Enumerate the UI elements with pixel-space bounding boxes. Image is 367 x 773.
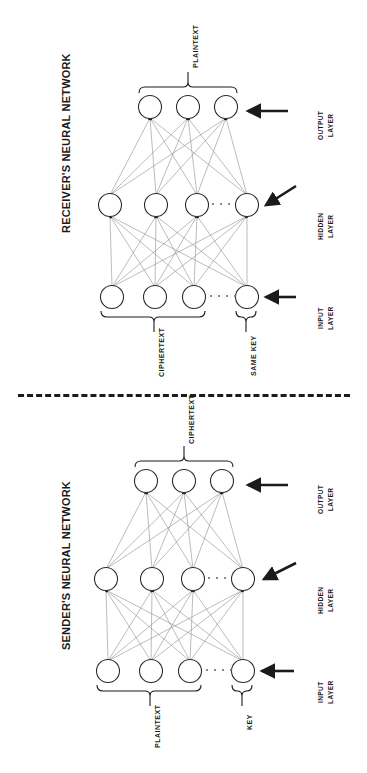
label-line-1: HIDDEN	[316, 587, 326, 614]
sender-key-brace-label: KEY	[246, 714, 253, 730]
input-layer-ellipsis	[206, 669, 232, 671]
receiver-input-layer-label: INPUT LAYER	[316, 307, 336, 331]
receiver-ciphertext-brace-label: CIPHERTEXT	[158, 328, 165, 377]
hidden-layer-ellipsis	[212, 203, 230, 205]
hidden-layer-pointer-arrow	[266, 186, 296, 205]
label-line-1: OUTPUT	[316, 111, 326, 140]
edges-input-to-hidden	[110, 216, 247, 287]
sender-network-title: SENDER'S NEURAL NETWORK	[60, 481, 72, 650]
receiver-hidden-layer-label: HIDDEN LAYER	[316, 213, 336, 240]
same-key-brace	[236, 311, 256, 332]
input-layer-ellipsis	[210, 295, 236, 297]
hidden-layer-nodes	[99, 194, 259, 217]
sender-input-layer-label: INPUT LAYER	[316, 681, 336, 705]
output-layer-nodes	[139, 96, 238, 119]
label-line-2: LAYER	[326, 485, 336, 514]
hidden-layer-ellipsis	[208, 577, 226, 579]
edges-input-to-hidden	[106, 590, 243, 661]
hidden-layer-pointer-arrow	[264, 563, 296, 579]
receiver-network-graphic	[0, 0, 367, 390]
output-layer-nodes	[135, 470, 234, 493]
ciphertext-brace	[101, 311, 205, 332]
key-brace	[232, 685, 252, 706]
edges-hidden-to-output	[110, 118, 247, 195]
receiver-plaintext-brace-label: PLAINTEXT	[192, 25, 199, 68]
sender-hidden-layer-label: HIDDEN LAYER	[316, 587, 336, 614]
edges-hidden-to-output	[106, 492, 243, 569]
label-line-2: LAYER	[326, 111, 336, 140]
label-line-2: LAYER	[326, 681, 336, 705]
plaintext-brace	[139, 72, 237, 93]
plaintext-brace	[97, 685, 201, 706]
receiver-output-layer-label: OUTPUT LAYER	[316, 111, 336, 140]
hidden-layer-nodes	[95, 568, 255, 591]
label-line-1: HIDDEN	[316, 213, 326, 240]
panel-divider	[18, 394, 350, 397]
receiver-network-panel: RECEIVER'S NEURAL NETWORK OUTPUT LAYER H…	[0, 0, 367, 390]
sender-network-panel: SENDER'S NEURAL NETWORK OUTPUT LAYER HID…	[0, 398, 367, 773]
label-line-2: LAYER	[326, 213, 336, 240]
sender-output-layer-label: OUTPUT LAYER	[316, 485, 336, 514]
receiver-same-key-brace-label: SAME KEY	[250, 335, 257, 376]
label-line-1: INPUT	[316, 681, 326, 705]
sender-plaintext-brace-label: PLAINTEXT	[154, 705, 161, 748]
receiver-network-title: RECEIVER'S NEURAL NETWORK	[60, 53, 72, 233]
label-line-1: OUTPUT	[316, 485, 326, 514]
label-line-2: LAYER	[326, 307, 336, 331]
label-line-1: INPUT	[316, 307, 326, 331]
sender-network-graphic	[0, 398, 367, 773]
label-line-2: LAYER	[326, 587, 336, 614]
sender-ciphertext-brace-label: CIPHERTEXT	[188, 395, 195, 444]
ciphertext-brace	[135, 446, 233, 467]
